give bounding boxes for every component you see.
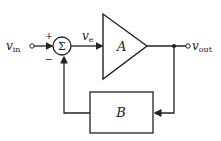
amplifier-label: A <box>116 39 126 54</box>
output-terminal <box>186 44 190 48</box>
output-label: vout <box>192 39 213 54</box>
feedback-wire-left <box>64 57 90 113</box>
minus-sign: − <box>45 54 53 65</box>
sigma-symbol: Σ <box>58 40 66 53</box>
feedback-diagram: vin Σ + − ve A vout B <box>0 0 221 141</box>
input-terminal <box>30 44 34 48</box>
feedback-label: B <box>115 105 126 120</box>
input-label: vin <box>6 39 21 54</box>
error-label: ve <box>82 29 94 44</box>
plus-sign: + <box>45 30 53 41</box>
feedback-wire-right <box>155 46 174 113</box>
